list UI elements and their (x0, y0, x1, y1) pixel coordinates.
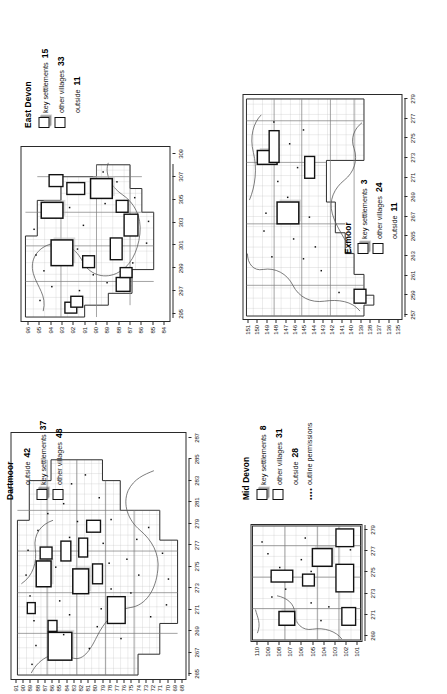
legend-value: 37 (37, 421, 47, 431)
dartmoor-y-tick-label: 88 (33, 685, 40, 691)
legend-label: key settlements (38, 434, 47, 485)
mid-devon-y-tickmark (323, 642, 324, 645)
dartmoor-x-tickmark (188, 480, 191, 481)
mid-devon-map-graphic (251, 525, 361, 641)
legend-value: 11 (388, 202, 398, 211)
exmoor-x-tick-label: 269 (408, 192, 415, 202)
exmoor-legend: Exmoor key settlements 3 other villages … (342, 124, 398, 254)
mid-devon-x-tickmark (364, 550, 367, 551)
legend-value: 3 (358, 180, 368, 185)
east-devon-legend-row-key: key settlements 15 (38, 8, 49, 128)
dartmoor-y-tickmark (167, 680, 168, 683)
mid-devon-x-tickmark (364, 529, 367, 530)
exmoor-legend-row-villages: other villages 24 (372, 124, 383, 254)
legend-value: 33 (55, 56, 65, 66)
dartmoor-y-tickmark (15, 680, 16, 683)
exmoor-y-tickmark (341, 320, 342, 323)
east-devon-x-tickmark (172, 153, 175, 154)
east-devon-x-tick-label: 295 (176, 309, 183, 319)
exmoor-x-tickmark (404, 255, 407, 256)
east-devon-y-tickmark (72, 322, 73, 325)
mid-devon-y-tick-label: 106 (297, 647, 304, 657)
legend-label: other villages (54, 442, 63, 485)
east-devon-y-tick-label: 93 (58, 327, 65, 333)
exmoor-y-tickmark (266, 320, 267, 323)
exmoor-y-tickmark (331, 320, 332, 323)
mid-devon-y-tick-label: 108 (275, 647, 282, 657)
dartmoor-y-tickmark (130, 680, 131, 683)
legend-value: 8 (257, 426, 267, 431)
exmoor-x-tickmark (404, 294, 407, 295)
dartmoor-y-tickmark (152, 680, 153, 683)
exmoor-x-tickmark (404, 137, 407, 138)
east-devon-x-tick-label: 301 (176, 241, 183, 251)
east-devon-y-tick-label: 88 (114, 327, 121, 333)
panel-east-devon: 295297299301303305307309 969594939291908… (14, 64, 224, 364)
dartmoor-x-tick-label: 269 (192, 626, 199, 636)
legend-label: other villages (374, 196, 383, 239)
east-devon-x-tickmark (172, 267, 175, 268)
exmoor-y-tickmark (360, 320, 361, 323)
legend-value: 31 (273, 428, 283, 438)
east-devon-x-tickmark (172, 199, 175, 200)
east-devon-y-tickmark (38, 322, 39, 325)
east-devon-x-tick-label: 303 (176, 218, 183, 228)
exmoor-x-tickmark (404, 216, 407, 217)
dartmoor-y-tick-label: 77 (113, 685, 120, 691)
exmoor-y-tickmark (303, 320, 304, 323)
dartmoor-y-tickmark (181, 680, 182, 683)
dartmoor-x-tickmark (188, 437, 191, 438)
exmoor-x-tick-label: 279 (408, 94, 415, 104)
exmoor-y-tickmark (378, 320, 379, 323)
exmoor-x-tickmark (404, 177, 407, 178)
east-devon-x-tick-label: 297 (176, 286, 183, 296)
exmoor-x-tick-label: 271 (408, 173, 415, 183)
dartmoor-legend: Dartmoor outside 42 key settlements 37 o… (4, 380, 63, 500)
mid-devon-y-tick-label: 102 (341, 647, 348, 657)
east-devon-x-tickmark (172, 244, 175, 245)
mid-devon-x-tickmark (364, 635, 367, 636)
east-devon-x-tick-label: 299 (176, 263, 183, 273)
east-devon-x-tickmark (172, 290, 175, 291)
exmoor-x-tick-label: 263 (408, 251, 415, 261)
dartmoor-y-tick-label: 82 (76, 685, 83, 691)
exmoor-x-tickmark (404, 196, 407, 197)
east-devon-legend-row-villages: other villages 33 (54, 8, 65, 128)
dartmoor-x-tick-label: 283 (192, 476, 199, 486)
legend-label: other villages (274, 442, 283, 485)
mid-devon-legend-row-outline: •••• outline permissions (304, 380, 313, 500)
legend-value: 11 (71, 76, 81, 85)
dartmoor-y-tickmark (51, 680, 52, 683)
dartmoor-x-tick-label: 273 (192, 583, 199, 593)
exmoor-y-tickmark (294, 320, 295, 323)
east-devon-y-tick-label: 96 (24, 327, 31, 333)
dartmoor-y-tickmark (102, 680, 103, 683)
exmoor-y-tickmark (247, 320, 248, 323)
exmoor-y-tick-label: 139 (356, 325, 363, 335)
legend-label: key settlements (258, 434, 267, 485)
dotted-line-icon: •••• (306, 489, 313, 500)
exmoor-x-tickmark (404, 118, 407, 119)
exmoor-x-tickmark (404, 98, 407, 99)
east-devon-y-tickmark (118, 322, 119, 325)
east-devon-y-tickmark (106, 322, 107, 325)
legend-label: other villages (56, 70, 65, 113)
mid-devon-y-tickmark (312, 642, 313, 645)
mid-devon-title: Mid Devon (240, 380, 250, 500)
exmoor-y-tick-label: 140 (347, 325, 354, 335)
dartmoor-y-tick-label: 84 (62, 685, 69, 691)
mid-devon-legend-row-key: key settlements 8 (256, 380, 267, 500)
dartmoor-y-tick-label: 74 (134, 685, 141, 691)
dartmoor-x-tick-label: 275 (192, 562, 199, 572)
dartmoor-y-tick-label: 87 (40, 685, 47, 691)
dartmoor-y-tickmark (138, 680, 139, 683)
exmoor-y-tick-label: 142 (328, 325, 335, 335)
dartmoor-y-tick-label: 91 (12, 685, 19, 691)
exmoor-x-tickmark (404, 157, 407, 158)
mid-devon-x-tick-label: 277 (368, 546, 375, 556)
east-devon-y-tick-label: 86 (137, 327, 144, 333)
dartmoor-x-tick-label: 271 (192, 605, 199, 615)
east-devon-y-tick-label: 95 (35, 327, 42, 333)
exmoor-x-tick-label: 267 (408, 212, 415, 222)
dartmoor-y-tickmark (58, 680, 59, 683)
